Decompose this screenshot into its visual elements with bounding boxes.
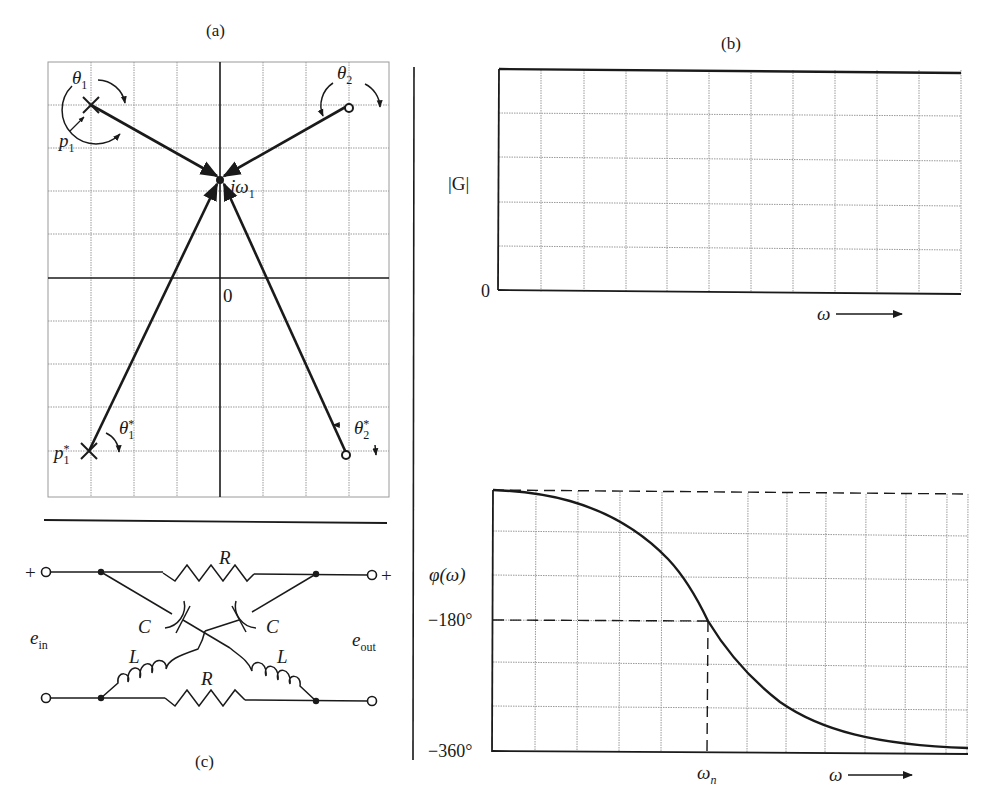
phase-x-axis bbox=[492, 751, 968, 754]
pole-p1-conj-label: p*1 bbox=[54, 443, 70, 466]
magnitude-top-line bbox=[499, 69, 961, 73]
origin-label: 0 bbox=[223, 286, 233, 305]
pole-p1-label: p1 bbox=[59, 131, 75, 150]
magnitude-axis-label: |G| bbox=[448, 174, 469, 193]
phase-axis-label: φ(ω) bbox=[429, 565, 466, 584]
angle-arcs bbox=[62, 80, 380, 455]
magnitude-grid bbox=[499, 70, 961, 292]
p1-pointer bbox=[70, 117, 84, 131]
magnitude-x-label: ω bbox=[817, 304, 830, 323]
angle-theta2-conj-label: θ*2 bbox=[354, 418, 369, 441]
capacitor-right-label: C bbox=[266, 617, 279, 636]
caption-c: (c) bbox=[195, 753, 214, 770]
panel-separator-horizontal bbox=[44, 520, 387, 523]
phase-y-axis bbox=[492, 490, 493, 752]
inductor-left-label: L bbox=[129, 647, 140, 666]
output-plus-label: + bbox=[381, 566, 392, 585]
angle-theta2-label: θ2 bbox=[337, 63, 352, 82]
magnitude-zero-tick: 0 bbox=[481, 282, 490, 300]
resistor-top-label: R bbox=[219, 548, 231, 567]
caption-b: (b) bbox=[721, 35, 741, 52]
output-voltage-label: eout bbox=[352, 630, 376, 649]
angle-theta1-label: θ1 bbox=[72, 68, 87, 87]
phase-grid bbox=[493, 491, 968, 753]
capacitor-left-label: C bbox=[138, 617, 151, 636]
inductor-right-label: L bbox=[277, 647, 288, 666]
input-plus-label: + bbox=[25, 563, 36, 582]
resistor-bottom-label: R bbox=[201, 669, 213, 688]
phase-tick-360: −360° bbox=[428, 742, 472, 760]
figure-canvas bbox=[0, 0, 1003, 802]
point-jw1-label: jω1 bbox=[230, 177, 255, 196]
panel-separator-vertical bbox=[413, 67, 414, 760]
natural-frequency-label: ωn bbox=[697, 763, 716, 782]
magnitude-x-axis bbox=[498, 290, 961, 294]
phase-tick-180: −180° bbox=[428, 611, 472, 629]
input-voltage-label: ein bbox=[30, 628, 48, 647]
phase-reference-dashes bbox=[493, 490, 968, 752]
angle-theta1-conj-label: θ*1 bbox=[119, 418, 134, 441]
magnitude-y-axis bbox=[498, 69, 499, 290]
zero-circle-icon bbox=[345, 104, 353, 112]
caption-a: (a) bbox=[206, 22, 225, 39]
phase-x-label: ω bbox=[829, 765, 842, 784]
point-jw1 bbox=[216, 176, 224, 184]
zero-circle-icon bbox=[342, 451, 350, 459]
pole-zero-vectors bbox=[89, 105, 349, 455]
